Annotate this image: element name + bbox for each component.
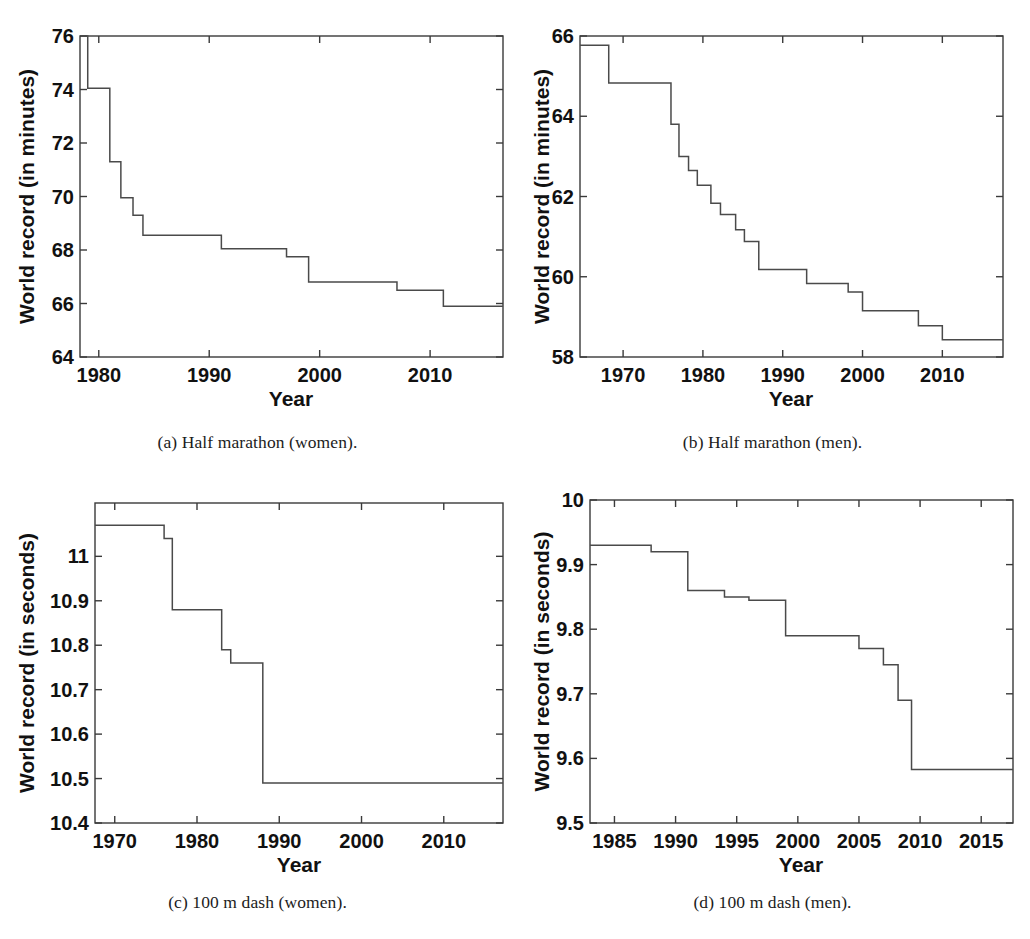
x-tick-label-d-5: 2010	[898, 830, 943, 852]
data-series-line-c	[95, 525, 503, 783]
y-tick-label-b-4: 66	[552, 25, 574, 47]
x-tick-label-a-0: 1980	[77, 364, 122, 386]
y-tick-label-d-4: 9.9	[556, 554, 584, 576]
x-tick-label-d-1: 1990	[653, 830, 698, 852]
data-series-line-a	[81, 36, 503, 306]
y-tick-label-d-0: 9.5	[556, 812, 584, 834]
figure-grid: 646668707274761980199020002010World reco…	[0, 0, 1030, 939]
y-tick-label-a-3: 70	[52, 186, 74, 208]
chart-b-svg: 586062646619701980199020002010World reco…	[515, 0, 1030, 430]
caption-d: (d) 100 m dash (men).	[515, 892, 1030, 913]
x-tick-label-d-0: 1985	[592, 830, 637, 852]
y-tick-label-c-3: 10.7	[50, 679, 89, 701]
x-axis-title-c: Year	[277, 853, 321, 876]
x-tick-label-c-1: 1980	[175, 830, 220, 852]
axis-box-d	[590, 500, 1013, 823]
y-tick-label-b-1: 60	[552, 266, 574, 288]
y-tick-label-c-5: 10.9	[50, 590, 89, 612]
caption-b: (b) Half marathon (men).	[515, 432, 1030, 453]
x-tick-label-b-1: 1980	[681, 364, 726, 386]
data-series-line-b	[580, 45, 1003, 340]
x-tick-label-d-6: 2015	[959, 830, 1004, 852]
panel-d-100m-dash-men: 9.59.69.79.89.91019851990199520002005201…	[515, 460, 1030, 930]
panel-a-half-marathon-women: 646668707274761980199020002010World reco…	[0, 0, 515, 470]
x-tick-label-b-0: 1970	[601, 364, 646, 386]
panel-b-half-marathon-men: 586062646619701980199020002010World reco…	[515, 0, 1030, 470]
y-tick-label-a-4: 72	[52, 132, 74, 154]
x-tick-label-c-4: 2010	[422, 830, 467, 852]
x-axis-title-d: Year	[779, 853, 823, 876]
y-tick-label-a-2: 68	[52, 239, 74, 261]
x-tick-label-b-3: 2000	[840, 364, 885, 386]
y-tick-label-c-2: 10.6	[50, 723, 89, 745]
y-tick-label-c-1: 10.5	[50, 768, 89, 790]
y-tick-label-d-5: 10	[562, 489, 584, 511]
y-tick-label-b-2: 62	[552, 186, 574, 208]
y-tick-label-b-3: 64	[552, 105, 575, 127]
y-tick-label-c-6: 11	[68, 545, 89, 567]
x-tick-label-a-3: 2010	[408, 364, 453, 386]
panel-c-100m-dash-women: 10.410.510.610.710.810.91119701980199020…	[0, 460, 515, 930]
data-series-line-d	[590, 545, 1013, 769]
y-axis-title-c: World record (in seconds)	[15, 533, 38, 793]
caption-a: (a) Half marathon (women).	[0, 432, 515, 453]
chart-a-svg: 646668707274761980199020002010World reco…	[0, 0, 515, 430]
x-axis-title-a: Year	[269, 387, 313, 410]
axis-box-b	[580, 36, 1003, 357]
y-axis-title-a: World record (in minutes)	[15, 69, 38, 324]
axis-box-a	[80, 36, 503, 357]
axis-box-c	[95, 503, 503, 823]
y-tick-label-c-0: 10.4	[50, 812, 90, 834]
y-tick-label-a-6: 76	[52, 25, 74, 47]
caption-c: (c) 100 m dash (women).	[0, 892, 515, 913]
x-tick-label-b-2: 1990	[760, 364, 805, 386]
y-tick-label-c-4: 10.8	[50, 634, 89, 656]
y-tick-label-d-3: 9.8	[556, 618, 584, 640]
y-axis-title-d: World record (in seconds)	[530, 532, 553, 792]
x-tick-label-a-2: 2000	[297, 364, 342, 386]
x-tick-label-d-2: 1995	[714, 830, 759, 852]
chart-d-svg: 9.59.69.79.89.91019851990199520002005201…	[515, 460, 1030, 890]
y-tick-label-a-1: 66	[52, 293, 74, 315]
x-tick-label-d-3: 2000	[776, 830, 821, 852]
x-tick-label-a-1: 1990	[187, 364, 232, 386]
x-axis-title-b: Year	[769, 387, 813, 410]
x-tick-label-c-0: 1970	[92, 830, 137, 852]
y-tick-label-a-0: 64	[52, 346, 75, 368]
x-tick-label-d-4: 2005	[837, 830, 882, 852]
y-tick-label-d-2: 9.7	[556, 683, 584, 705]
y-tick-label-d-1: 9.6	[556, 747, 584, 769]
chart-c-svg: 10.410.510.610.710.810.91119701980199020…	[0, 460, 515, 890]
x-tick-label-c-2: 1990	[257, 830, 302, 852]
y-axis-title-b: World record (in minutes)	[530, 69, 553, 324]
x-tick-label-b-4: 2010	[920, 364, 965, 386]
x-tick-label-c-3: 2000	[339, 830, 384, 852]
y-tick-label-b-0: 58	[552, 346, 574, 368]
y-tick-label-a-5: 74	[52, 79, 75, 101]
